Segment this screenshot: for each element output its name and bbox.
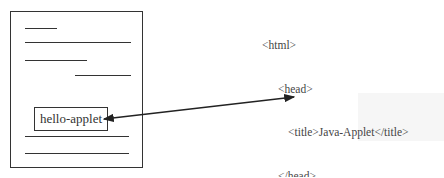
- html-code-block: <html> <head> <title>Java-Applet</title>…: [262, 9, 418, 177]
- code-line: <head>: [262, 82, 418, 97]
- code-line: <title>Java-Applet</title>: [262, 125, 418, 140]
- code-line: <html>: [262, 38, 418, 53]
- code-line: </head>: [262, 169, 418, 178]
